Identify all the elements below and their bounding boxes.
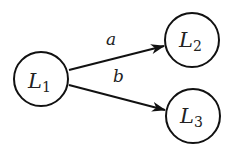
edge-l1-l3: b — [69, 66, 165, 110]
diagram-canvas: a b L1 L2 L3 — [0, 0, 232, 159]
node-l2: L2 — [165, 13, 219, 67]
node-l1: L1 — [14, 52, 68, 106]
edge-label-b: b — [113, 66, 124, 86]
arrow-icon — [69, 85, 165, 110]
node-l3: L3 — [166, 89, 220, 143]
edge-label-a: a — [106, 29, 116, 49]
edge-l1-l2: a — [69, 29, 164, 70]
